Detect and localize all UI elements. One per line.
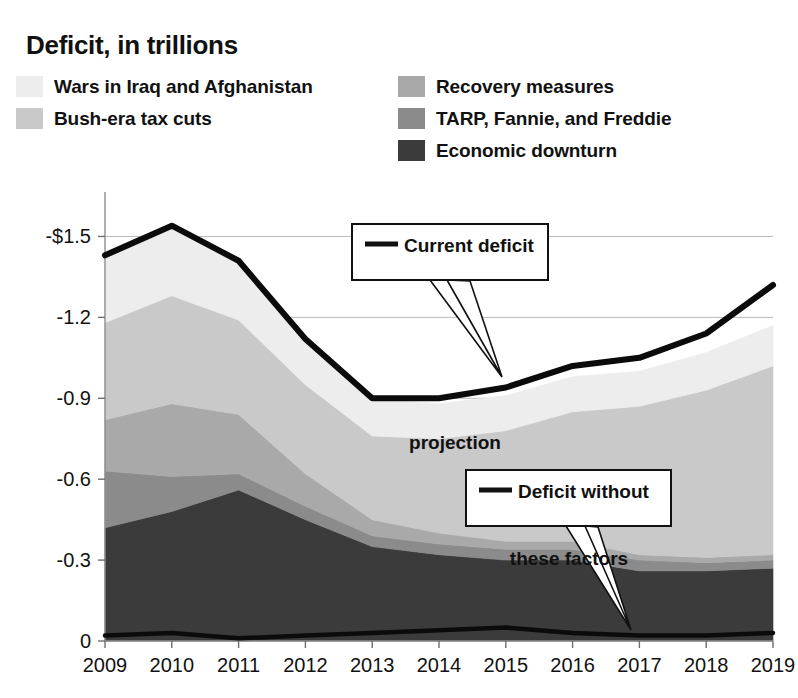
y-tick-label: 0 xyxy=(80,630,91,652)
annotation-pointer xyxy=(430,280,502,377)
x-tick-label: 2015 xyxy=(484,654,529,676)
annotation-text-line-1: Current deficit xyxy=(404,235,535,256)
x-tick-label: 2016 xyxy=(550,654,595,676)
x-tick-label: 2017 xyxy=(617,654,662,676)
stacked-area-chart: -$1.5-1.2-0.9-0.6-0.30 20092010201120122… xyxy=(0,0,798,698)
annotation-text-line-2: these factors xyxy=(510,548,628,569)
x-tick-label: 2019 xyxy=(751,654,796,676)
y-tick-label: -0.9 xyxy=(57,387,91,409)
y-tick-label: -$1.5 xyxy=(45,225,91,247)
x-tick-label: 2018 xyxy=(684,654,729,676)
y-tick-label: -0.6 xyxy=(57,468,91,490)
x-tick-label: 2014 xyxy=(417,654,462,676)
x-tick-label: 2012 xyxy=(283,654,328,676)
x-tick-label: 2010 xyxy=(150,654,195,676)
chart-x-tick-labels: 2009201020112012201320142015201620172018… xyxy=(83,654,796,676)
chart-y-tick-labels: -$1.5-1.2-0.9-0.6-0.30 xyxy=(45,225,91,652)
x-tick-label: 2009 xyxy=(83,654,128,676)
chart-plot-area: -$1.5-1.2-0.9-0.6-0.30 20092010201120122… xyxy=(0,0,798,698)
x-tick-label: 2013 xyxy=(350,654,395,676)
y-tick-label: -0.3 xyxy=(57,549,91,571)
y-tick-label: -1.2 xyxy=(57,306,91,328)
x-tick-label: 2011 xyxy=(217,654,260,676)
chart-page: Deficit, in trillions Wars in Iraq and A… xyxy=(0,0,798,698)
annotation-text-line-2: projection xyxy=(409,432,501,453)
annotation-text-line-1: Deficit without xyxy=(518,481,650,502)
